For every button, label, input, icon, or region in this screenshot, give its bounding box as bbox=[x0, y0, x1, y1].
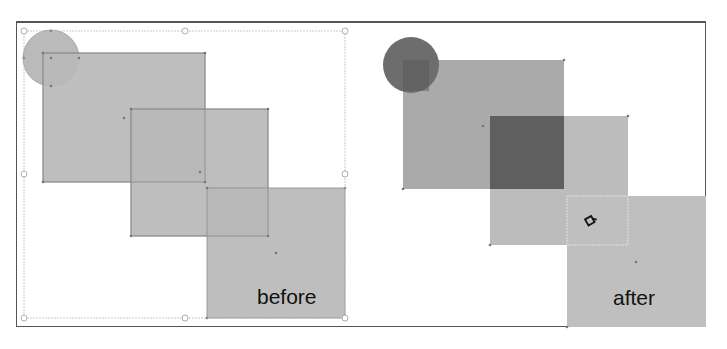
before-panel bbox=[21, 28, 348, 321]
after-panel bbox=[383, 37, 706, 328]
before-label: before bbox=[257, 285, 317, 309]
intersection-region[interactable] bbox=[490, 116, 564, 189]
after-label: after bbox=[613, 286, 655, 310]
